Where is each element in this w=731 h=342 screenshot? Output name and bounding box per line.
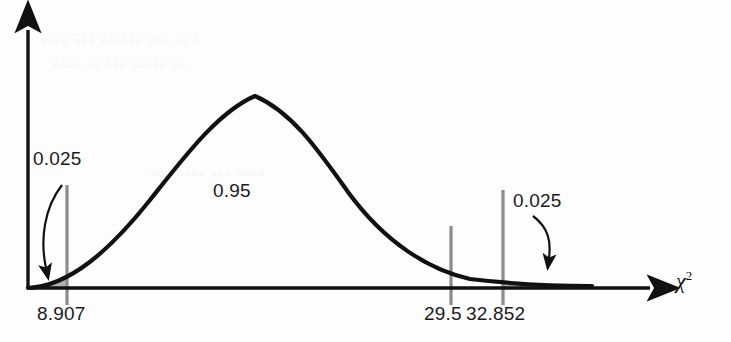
annotation-lower-tail-probability: 0.025 [33,148,82,170]
shaded-tail-regions [28,96,592,288]
tick-label-32-852: 32.852 [466,303,525,325]
tick-label-8-907: 8.907 [37,303,86,325]
x-axis-label-chi-squared: χ2 [676,268,692,294]
upper-tail-annotation-arrow [533,216,550,258]
lower-tail-annotation-arrow [43,185,62,268]
annotation-central-probability: 0.95 [213,180,251,202]
chi-square-density-curve [28,96,592,288]
upper-tail-shaded-area [28,96,592,288]
chi-square-distribution-figure: ▫ ▫▫ ▫▫▫ ▫▫▫▫▫▫ ▫▫▫ ▫▫▫▫ ▫▫ ▫▫▫▫▫ ▫▫▫ ▫▫… [0,0,731,342]
lower-tail-shaded-area [28,96,592,288]
annotation-upper-tail-probability: 0.025 [513,190,562,212]
x-axis-label-exponent: 2 [686,268,693,283]
tick-label-29-5: 29.5 [424,303,462,325]
x-axis-label-base: χ [676,268,686,293]
chi-square-plot-canvas [0,0,731,342]
